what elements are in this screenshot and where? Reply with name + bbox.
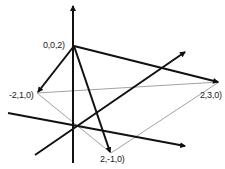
axes xyxy=(8,6,185,163)
diagram-canvas xyxy=(0,0,225,169)
base-plane-lines xyxy=(37,82,219,153)
point-label-neg2-1-0: -2,1,0) xyxy=(9,90,34,100)
point-label-2-neg1-0: 2,-1,0) xyxy=(100,154,125,164)
vector-to-neg2-1-0 xyxy=(38,46,74,92)
point-label-2-3-0: 2,3,0) xyxy=(200,90,222,100)
vector-to-2-neg1-0 xyxy=(74,46,110,152)
vector-to-2-3-0 xyxy=(74,46,218,82)
point-label-0-0-2: 0,0,2) xyxy=(43,40,65,50)
